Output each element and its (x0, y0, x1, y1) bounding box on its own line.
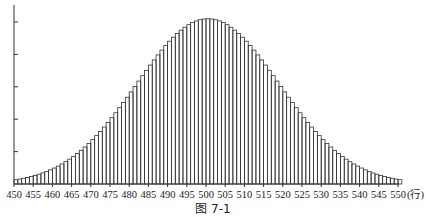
histogram-bar (248, 46, 252, 184)
histogram-bar (379, 175, 383, 184)
histogram-bar (290, 103, 294, 184)
histogram-bar (122, 103, 126, 184)
histogram-bar (321, 140, 325, 184)
histogram-bar (191, 23, 195, 184)
histogram-bar (129, 92, 133, 184)
histogram-bar (60, 164, 64, 184)
figure-caption: 图 7-1 (0, 199, 426, 216)
histogram-bar (41, 173, 45, 184)
histogram-bar (118, 108, 122, 184)
chart-axes: 4504554604654704754804854904955005055105… (6, 5, 424, 201)
histogram-bar (283, 92, 287, 184)
histogram-bar (267, 70, 271, 184)
histogram-bar (187, 25, 191, 184)
histogram-bar (156, 55, 160, 184)
histogram-bar (348, 162, 352, 184)
histogram-bar (271, 76, 275, 184)
histogram-bar (114, 113, 118, 184)
histogram-bar (26, 177, 30, 184)
histogram-bar (225, 25, 229, 184)
histogram-bar (79, 150, 83, 184)
histogram-bar (398, 180, 402, 184)
histogram-bar (106, 122, 110, 184)
histogram-bar (244, 41, 248, 184)
histogram-bar (310, 127, 314, 184)
histogram-bar (91, 140, 95, 184)
histogram-bar (237, 34, 241, 184)
histogram-bar (37, 174, 41, 184)
histogram-bar (202, 19, 206, 184)
histogram-bar (252, 50, 256, 184)
histogram-bar (287, 97, 291, 184)
histogram-bar (29, 176, 33, 184)
x-axis-ticks (14, 184, 398, 187)
histogram-bar (102, 127, 106, 184)
histogram-bar (49, 170, 53, 184)
histogram-bar (198, 20, 202, 184)
histogram-bar (171, 37, 175, 184)
histogram-bar (333, 150, 337, 184)
histogram-bar (306, 122, 310, 184)
histogram-bar (148, 65, 152, 184)
histogram-bar (164, 46, 168, 184)
histogram-bar (95, 136, 99, 184)
histogram-bar (375, 174, 379, 184)
histogram-bar (68, 159, 72, 184)
histogram-bar (275, 81, 279, 184)
histogram-bar (75, 153, 79, 184)
histogram-bar (221, 23, 225, 184)
histogram-bar (340, 156, 344, 184)
histogram-bar (337, 153, 341, 184)
histogram-bar (206, 19, 210, 184)
y-axis-ticks (14, 22, 18, 152)
histogram-bar (360, 168, 364, 184)
histogram-bar (294, 108, 298, 184)
histogram-chart: 4504554604654704754804854904955005055105… (0, 0, 426, 217)
histogram-bar (229, 27, 233, 184)
histogram-bar (175, 34, 179, 184)
histogram-bar (264, 65, 268, 184)
histogram-bar (210, 19, 214, 184)
histogram-bars (14, 19, 402, 184)
histogram-bar (241, 37, 245, 184)
histogram-bar (390, 178, 394, 184)
histogram-bar (45, 171, 49, 184)
histogram-bar (256, 55, 260, 184)
histogram-bar (168, 41, 172, 184)
histogram-bar (52, 168, 56, 184)
histogram-bar (152, 60, 156, 184)
histogram-bar (352, 164, 356, 184)
histogram-bar (179, 30, 183, 184)
histogram-bar (33, 175, 37, 184)
histogram-bar (133, 86, 137, 184)
histogram-bar (356, 166, 360, 184)
histogram-bar (367, 171, 371, 184)
histogram-bar (302, 118, 306, 184)
histogram-bar (160, 50, 164, 184)
histogram-bar (137, 81, 141, 184)
histogram-bar (383, 176, 387, 184)
histogram-bar (317, 136, 321, 184)
histogram-bar (386, 177, 390, 184)
histogram-bar (329, 147, 333, 184)
histogram-bar (298, 113, 302, 184)
histogram-bar (260, 60, 264, 184)
histogram-bar (18, 179, 22, 184)
histogram-bar (14, 180, 18, 184)
histogram-bar (125, 97, 129, 184)
histogram-bar (87, 143, 91, 184)
histogram-bar (141, 76, 145, 184)
histogram-bar (194, 21, 198, 184)
histogram-bar (218, 21, 222, 184)
histogram-bar (233, 30, 237, 184)
histogram-bar (83, 147, 87, 184)
histogram-bar (371, 173, 375, 184)
histogram-bar (214, 20, 218, 184)
histogram-bar (325, 143, 329, 184)
histogram-bar (279, 86, 283, 184)
histogram-bar (314, 131, 318, 184)
histogram-bar (72, 156, 76, 184)
histogram-bar (394, 179, 398, 184)
histogram-bar (56, 166, 60, 184)
histogram-bar (344, 159, 348, 184)
